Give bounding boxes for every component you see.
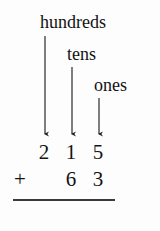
addend1-ones-digit: 5	[90, 142, 106, 163]
arrow-layer	[0, 0, 160, 231]
addend2-ones-digit: 3	[90, 169, 106, 190]
plus-operator: +	[12, 169, 28, 190]
place-value-addition-worksheet: hundreds tens ones 2 1 5 + 6 3	[0, 0, 160, 231]
addend2-tens-digit: 6	[63, 169, 79, 190]
addend1-tens-digit: 1	[63, 142, 79, 163]
addend1-hundreds-digit: 2	[36, 142, 52, 163]
sum-rule	[13, 199, 115, 201]
